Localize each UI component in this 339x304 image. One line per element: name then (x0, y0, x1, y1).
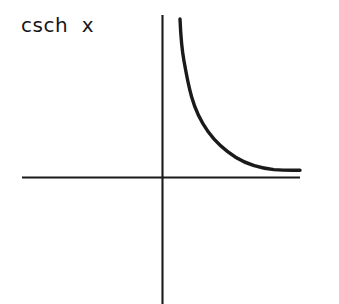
csch-curve (180, 19, 300, 170)
curve-label: csch x (21, 13, 94, 37)
figure-container: csch x (0, 0, 339, 304)
plot-canvas (0, 0, 339, 304)
